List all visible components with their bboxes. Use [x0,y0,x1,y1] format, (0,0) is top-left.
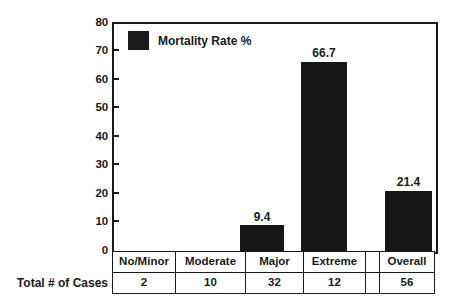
table-cell-spacer [366,252,380,273]
y-tick-label-30: 30 [80,159,108,171]
y-axis: 80 70 60 50 40 30 20 10 0 [76,0,108,306]
table-cell-category-major: Major [246,252,304,273]
bar-label-extreme: 66.7 [301,47,347,59]
y-tick-label-0: 0 [80,245,108,257]
legend-label-mortality-rate: Mortality Rate % [158,35,251,47]
table-cell-count-moderate: 10 [176,273,246,294]
y-tick-mark-40 [112,135,119,137]
table-cell-count-no-minor: 2 [113,273,176,294]
y-tick-mark-20 [112,192,119,194]
table-cell-spacer-count [366,273,380,294]
table-cell-count-extreme: 12 [304,273,366,294]
y-tick-label-40: 40 [80,131,108,143]
case-count-table: No/Minor Moderate Major Extreme Overall … [112,251,435,294]
table-cell-category-extreme: Extreme [304,252,366,273]
bar-overall [385,191,432,252]
bar-label-overall: 21.4 [385,176,432,188]
bar-label-major: 9.4 [240,211,284,223]
plot-area: 9.4 66.7 21.4 [112,22,438,254]
table-cell-category-moderate: Moderate [176,252,246,273]
table-row-label-total-cases: Total # of Cases [17,277,108,289]
bar-extreme [301,62,347,252]
legend: Mortality Rate % [128,31,251,50]
y-tick-label-70: 70 [80,45,108,57]
bar-major [240,225,284,252]
table-cell-category-no-minor: No/Minor [113,252,176,273]
y-tick-mark-60 [112,78,119,80]
mortality-rate-bar-chart: 9.4 66.7 21.4 80 70 60 50 40 30 20 10 0 … [0,0,456,306]
y-tick-label-50: 50 [80,102,108,114]
table-row-total-cases: 2 10 32 12 56 [113,273,435,294]
y-tick-label-60: 60 [80,74,108,86]
y-tick-mark-70 [112,49,119,51]
y-tick-mark-30 [112,163,119,165]
y-tick-label-10: 10 [80,216,108,228]
table-cell-count-major: 32 [246,273,304,294]
table-cell-count-overall: 56 [380,273,435,294]
table-row-category-headers: No/Minor Moderate Major Extreme Overall [113,252,435,273]
y-tick-label-80: 80 [80,17,108,29]
legend-swatch-mortality-rate [128,31,149,50]
y-tick-label-20: 20 [80,188,108,200]
y-tick-mark-10 [112,220,119,222]
table-cell-category-overall: Overall [380,252,435,273]
y-tick-mark-50 [112,106,119,108]
